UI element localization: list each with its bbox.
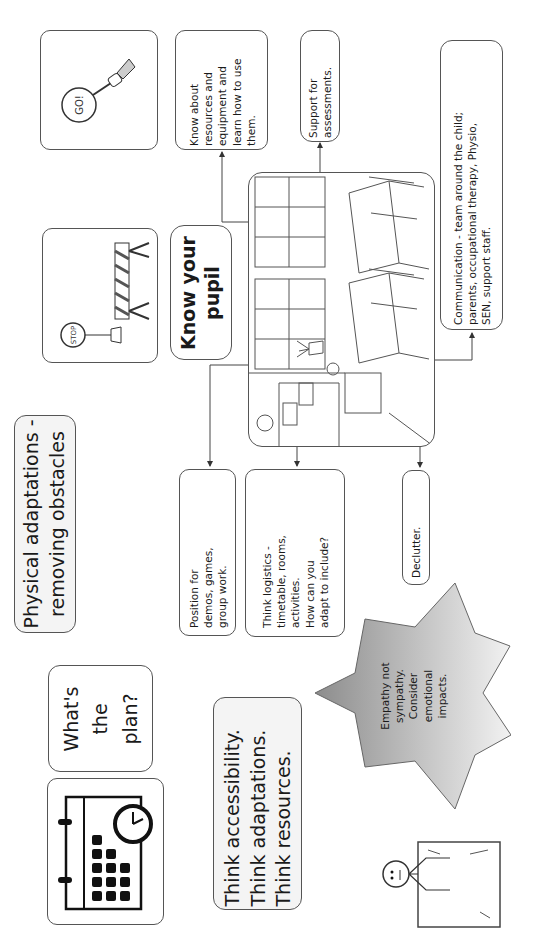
know-resources-text: Know about resources and equipment and l… [186, 34, 257, 146]
think-card: Think accessibility. Think adaptations. … [213, 697, 302, 910]
think-text: Think accessibility. Think adaptations. … [219, 701, 296, 906]
support-assessments-text: Support for assessments. [306, 34, 334, 138]
calendar-card [47, 778, 164, 925]
central-title-card: Know your pupil [170, 225, 232, 360]
communication-card: Communication - team around the child; p… [440, 40, 503, 330]
stop-barrier-card: STOP [42, 228, 158, 363]
communication-text: Communication - team around the child; p… [450, 45, 493, 325]
physical-adaptations-card: Physical adaptations - removing obstacle… [14, 415, 76, 633]
position-card: Position for demos, games, group work. [179, 469, 236, 636]
go-sign-card: GO! [40, 30, 158, 150]
declutter-text: Declutter. [409, 478, 423, 578]
physical-adaptations-text: Physical adaptations - removing obstacle… [19, 418, 70, 630]
stick-figure-box-icon [380, 820, 505, 935]
declutter-card: Declutter. [402, 470, 430, 585]
stop-barrier-icon: STOP [43, 229, 158, 363]
whats-plan-card: What's the plan? [48, 665, 153, 772]
classroom-illustration [248, 172, 435, 447]
go-sign-icon: GO! [41, 31, 158, 150]
whats-plan-text: What's the plan? [56, 669, 144, 769]
svg-text:STOP: STOP [70, 326, 78, 344]
support-assessments-card: Support for assessments. [300, 30, 340, 142]
position-text: Position for demos, games, group work. [186, 478, 229, 628]
know-resources-card: Know about resources and equipment and l… [175, 30, 268, 150]
stick-figure [380, 820, 505, 935]
svg-text:GO!: GO! [74, 95, 85, 115]
empathy-star: Empathy not sympathy. Consider emotional… [315, 583, 511, 809]
calendar-clock-icon [48, 779, 164, 925]
central-title: Know your pupil [177, 228, 225, 358]
classroom-icon [249, 173, 435, 447]
empathy-text: Empathy not sympathy. Consider emotional… [378, 641, 449, 751]
